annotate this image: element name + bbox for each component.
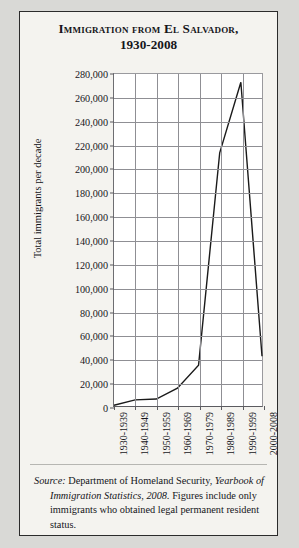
y-axis-tick-label: 60,000	[80, 331, 114, 342]
gridline-vertical	[135, 74, 136, 406]
gridline-vertical	[221, 74, 222, 406]
y-axis-tick-label: 160,000	[75, 212, 114, 223]
plot-area: 280,000260,000240,000220,000200,000180,0…	[113, 73, 263, 407]
y-axis-tick-mark	[110, 288, 114, 289]
y-axis-tick-label: 240,000	[75, 116, 114, 127]
gridline-vertical	[200, 74, 201, 406]
gridline-vertical	[243, 74, 244, 406]
y-axis-tick-label: 220,000	[75, 140, 114, 151]
x-axis-tick-mark	[114, 406, 115, 410]
x-axis-tick-label: 1990-1999	[247, 412, 258, 455]
y-axis-title: Total immigrants per decade	[32, 99, 43, 299]
y-axis-tick-mark	[110, 360, 114, 361]
x-axis-tick-label: 1960-1969	[182, 412, 193, 455]
chart-figure: Immigration from El Salvador, 1930-2008 …	[19, 11, 278, 536]
y-axis-tick-label: 140,000	[75, 236, 114, 247]
x-axis-tick-label: 1950-1959	[161, 412, 172, 455]
source-label: Source:	[34, 475, 66, 486]
title-line-2: 1930-2008	[28, 37, 269, 53]
x-axis-tick-label: 2000-2008	[268, 412, 279, 455]
y-axis-tick-mark	[110, 312, 114, 313]
source-text-1: Department of Homeland Security,	[66, 475, 215, 486]
y-axis-tick-label: 180,000	[75, 188, 114, 199]
divider	[30, 464, 267, 465]
y-axis-tick-label: 260,000	[75, 92, 114, 103]
x-axis-tick-mark	[135, 406, 136, 410]
chart-area: Total immigrants per decade 280,000260,0…	[20, 65, 277, 430]
y-axis-tick-mark	[110, 217, 114, 218]
page-title: Immigration from El Salvador, 1930-2008	[20, 12, 277, 52]
y-axis-tick-label: 280,000	[75, 69, 114, 80]
y-axis-tick-mark	[110, 193, 114, 194]
y-axis-tick-mark	[110, 121, 114, 122]
source-note: Source: Department of Homeland Security,…	[34, 474, 265, 532]
y-axis-tick-mark	[110, 336, 114, 337]
y-axis-tick-label: 200,000	[75, 164, 114, 175]
y-axis-tick-mark	[110, 169, 114, 170]
y-axis-tick-label: 20,000	[80, 379, 114, 390]
y-axis-tick-mark	[110, 74, 114, 75]
y-axis-tick-mark	[110, 241, 114, 242]
gridline-vertical	[178, 74, 179, 406]
title-line-1: Immigration from El Salvador,	[58, 21, 238, 36]
y-axis-tick-mark	[110, 264, 114, 265]
x-axis-tick-mark	[264, 406, 265, 410]
x-axis-tick-mark	[157, 406, 158, 410]
y-axis-tick-mark	[110, 145, 114, 146]
y-axis-tick-mark	[110, 97, 114, 98]
y-axis-tick-label: 40,000	[80, 355, 114, 366]
x-axis-tick-label: 1970-1979	[204, 412, 215, 455]
y-axis-tick-label: 80,000	[80, 307, 114, 318]
y-axis-tick-label: 120,000	[75, 259, 114, 270]
x-axis-tick-mark	[200, 406, 201, 410]
x-axis-tick-mark	[221, 406, 222, 410]
x-axis-tick-label: 1930-1939	[118, 412, 129, 455]
x-axis-tick-label: 1980-1989	[225, 412, 236, 455]
x-axis-tick-mark	[178, 406, 179, 410]
y-axis-tick-label: 100,000	[75, 283, 114, 294]
x-axis-tick-label: 1940-1949	[139, 412, 150, 455]
y-axis-tick-mark	[110, 384, 114, 385]
x-axis-tick-mark	[243, 406, 244, 410]
gridline-vertical	[157, 74, 158, 406]
